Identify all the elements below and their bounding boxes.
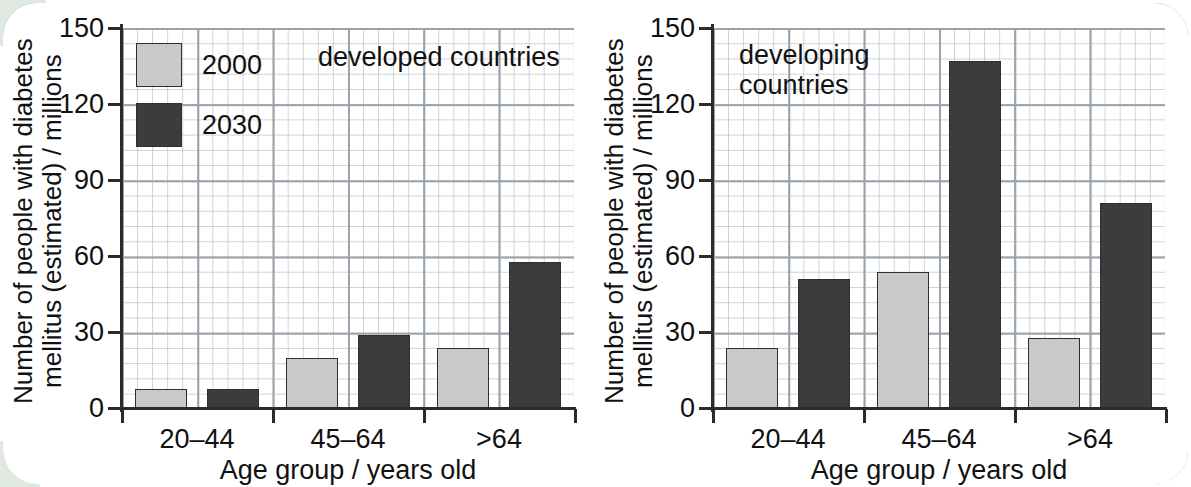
x-tick-right-developed xyxy=(574,409,577,423)
legend-item-2000: 2000 xyxy=(136,38,262,92)
y-tick-150-developed xyxy=(108,27,122,30)
y-tick-120-developing xyxy=(699,103,713,106)
bar-developing-2044-2000 xyxy=(726,348,778,409)
y-tick-60-developing xyxy=(699,255,713,258)
y-tick-label-column-developing: 150 120 90 60 30 0 xyxy=(629,0,695,487)
y-tick-90-developing xyxy=(699,179,713,182)
chart-panel-developed-countries: Number of people with diabetes mellitus … xyxy=(0,0,595,487)
x-category-label-0-developing: 20–44 xyxy=(713,424,863,455)
y-tick-label-30: 30 xyxy=(635,319,695,346)
y-tick-label-60: 60 xyxy=(44,243,104,270)
bar-developed-64-2030 xyxy=(509,262,561,409)
bar-developing-4564-2000 xyxy=(877,272,929,409)
legend-item-2030: 2030 xyxy=(136,98,262,152)
x-axis-line-developing xyxy=(701,407,1167,410)
legend-swatch-2030-icon xyxy=(136,103,182,147)
bar-developing-2044-2030 xyxy=(798,279,850,409)
y-tick-150-developing xyxy=(699,27,713,30)
figure-frame: Number of people with diabetes mellitus … xyxy=(0,0,1191,487)
x-axis-title-developing: Age group / years old xyxy=(713,455,1165,486)
x-axis-line-developed xyxy=(110,407,576,410)
y-tick-90-developed xyxy=(108,179,122,182)
y-tick-label-column-developed: 150 120 90 60 30 0 xyxy=(38,0,104,487)
y-tick-label-30: 30 xyxy=(44,319,104,346)
y-tick-label-0: 0 xyxy=(635,395,695,422)
x-category-label-1-developed: 45–64 xyxy=(273,424,423,455)
y-tick-30-developed xyxy=(108,331,122,334)
y-tick-0-developing xyxy=(699,407,713,410)
y-tick-label-120: 120 xyxy=(44,91,104,118)
y-tick-label-90: 90 xyxy=(44,167,104,194)
bar-developing-64-2000 xyxy=(1028,338,1080,409)
bar-developed-64-2000 xyxy=(437,348,489,409)
x-tick-1-developing xyxy=(863,409,866,423)
y-axis-line-developed xyxy=(120,24,123,412)
x-tick-2-developed xyxy=(423,409,426,423)
chart-panel-developing-countries: Number of people with diabetes mellitus … xyxy=(591,0,1186,487)
legend-label-2000: 2000 xyxy=(202,50,262,81)
y-tick-label-150: 150 xyxy=(44,15,104,42)
x-category-label-1-developing: 45–64 xyxy=(864,424,1014,455)
y-tick-label-120: 120 xyxy=(635,91,695,118)
bar-developed-4564-2030 xyxy=(358,335,410,409)
x-axis-title-developed: Age group / years old xyxy=(122,455,574,486)
x-tick-2-developing xyxy=(1014,409,1017,423)
y-tick-0-developed xyxy=(108,407,122,410)
x-tick-left-developed xyxy=(121,409,124,423)
x-category-label-2-developed: >64 xyxy=(424,424,574,455)
x-tick-right-developing xyxy=(1165,409,1168,423)
bar-developed-2044-2000 xyxy=(135,389,187,409)
x-category-label-2-developing: >64 xyxy=(1015,424,1165,455)
legend-swatch-2000-icon xyxy=(136,43,182,87)
y-tick-30-developing xyxy=(699,331,713,334)
y-tick-120-developed xyxy=(108,103,122,106)
y-tick-60-developed xyxy=(108,255,122,258)
panel-title-developing: developing countries xyxy=(739,40,870,100)
y-tick-label-150: 150 xyxy=(635,15,695,42)
bar-developing-64-2030 xyxy=(1100,203,1152,409)
legend: 2000 2030 xyxy=(136,38,262,158)
y-axis-line-developing xyxy=(711,24,714,412)
panel-title-developed: developed countries xyxy=(318,42,560,72)
x-category-label-0-developed: 20–44 xyxy=(122,424,272,455)
y-tick-label-90: 90 xyxy=(635,167,695,194)
legend-label-2030: 2030 xyxy=(202,110,262,141)
x-tick-1-developed xyxy=(272,409,275,423)
bar-developed-2044-2030 xyxy=(207,389,259,409)
x-tick-left-developing xyxy=(712,409,715,423)
bar-developing-4564-2030 xyxy=(949,61,1001,409)
bar-developed-4564-2000 xyxy=(286,358,338,409)
y-tick-label-60: 60 xyxy=(635,243,695,270)
y-tick-label-0: 0 xyxy=(44,395,104,422)
